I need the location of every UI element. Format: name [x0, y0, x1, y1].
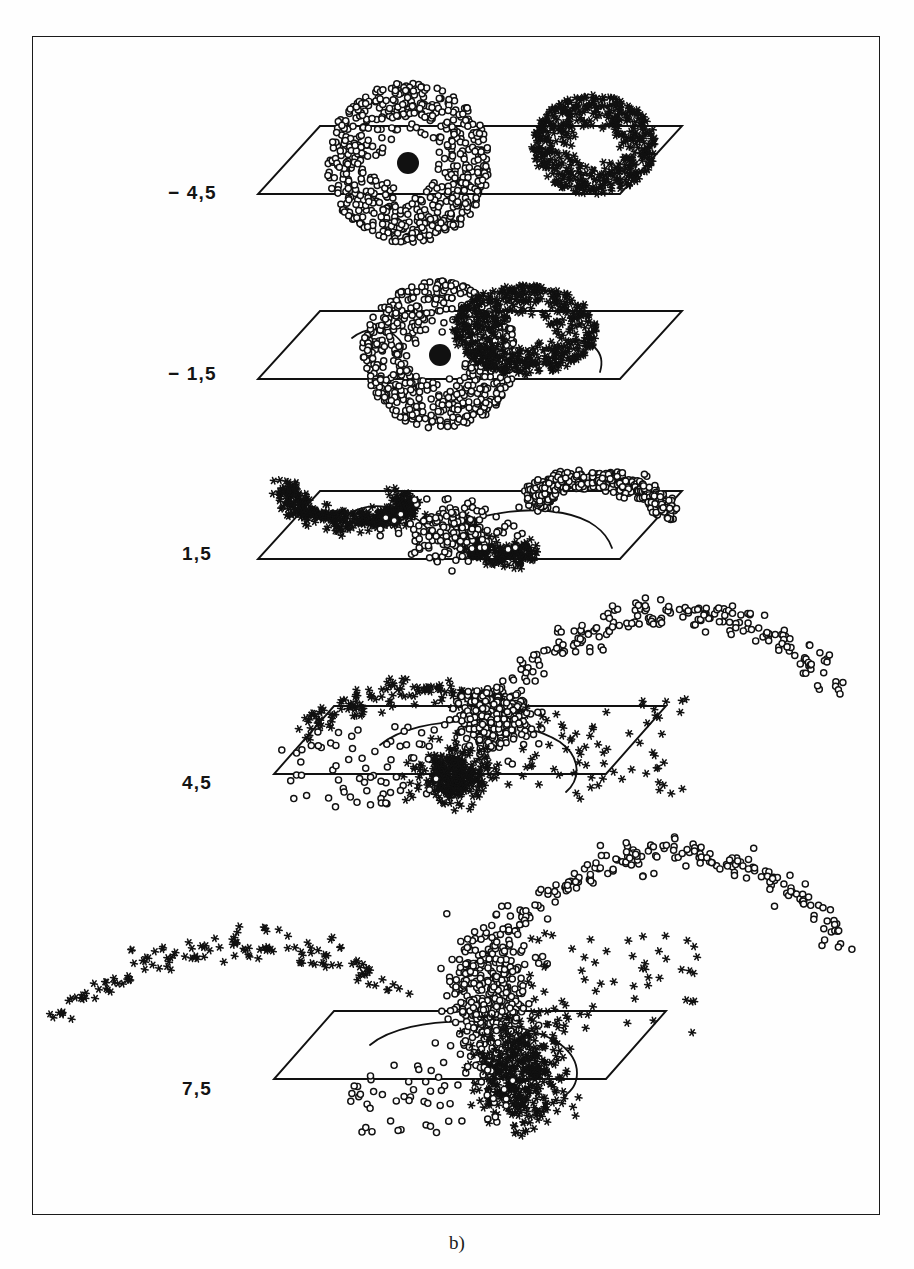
panel-5 [47, 834, 855, 1139]
figure-page: − 4,5− 1,51,54,57,5 b) [0, 0, 914, 1269]
panel-3 [258, 467, 682, 574]
figure-svg-canvas [0, 0, 914, 1269]
panel-5-arc-asterisks [47, 923, 413, 1022]
panel-4 [274, 595, 846, 814]
panel-1 [258, 81, 682, 246]
panel-3-cluster-asterisks-0 [269, 477, 429, 539]
panel-1-cluster-asterisks-1 [529, 92, 658, 198]
row-label-2: 1,5 [182, 543, 212, 565]
figure-plot-area [0, 0, 914, 1269]
row-label-1: − 1,5 [168, 363, 217, 385]
panel-2 [258, 278, 682, 431]
panel-5-cluster-circles-3 [348, 1059, 516, 1135]
row-label-4: 7,5 [182, 1078, 212, 1100]
panel-1-cluster-circles-0 [325, 81, 491, 246]
figure-caption: b) [0, 1232, 914, 1254]
panel-3-cluster-circles-1 [522, 467, 680, 522]
row-label-3: 4,5 [182, 772, 212, 794]
row-label-0: − 4,5 [168, 182, 217, 204]
